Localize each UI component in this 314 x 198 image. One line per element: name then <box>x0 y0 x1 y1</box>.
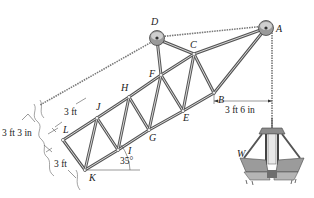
member-JI <box>97 118 118 150</box>
member-FE <box>161 75 183 111</box>
dimension-labels: 3 ft 3 ft 3 in 3 ft 3 ft 6 in 35° <box>2 105 255 169</box>
label-G: G <box>149 132 156 143</box>
joint-H <box>127 95 130 98</box>
label-C: C <box>190 39 197 50</box>
truss-members <box>63 28 266 170</box>
joint-J <box>95 116 98 119</box>
truss-diagram: ABCDEFGHIJKLW 3 ft 3 ft 3 in 3 ft 3 ft 6… <box>0 0 314 198</box>
member-GE <box>149 111 183 130</box>
dim-top-panel: 3 ft <box>64 107 77 117</box>
joint-I <box>116 148 119 151</box>
label-H: H <box>120 82 129 93</box>
pulley-d <box>150 31 165 46</box>
truss-members-highlight <box>63 28 266 170</box>
dim-depth: 3 ft 3 in <box>2 128 32 138</box>
dim-bottom-panel: 3 ft <box>54 159 67 169</box>
label-F: F <box>148 68 156 79</box>
dim-horizontal-offset: 3 ft 6 in <box>225 105 255 115</box>
pulley-a <box>259 21 274 36</box>
label-I: I <box>127 145 132 156</box>
label-J: J <box>96 101 101 112</box>
label-E: E <box>182 112 189 123</box>
member-IH <box>118 97 129 150</box>
label-A: A <box>275 23 283 34</box>
label-K: K <box>88 172 97 183</box>
joint-F <box>159 73 162 76</box>
label-D: D <box>150 16 159 27</box>
label-B: B <box>218 94 224 105</box>
member-HG <box>129 97 149 130</box>
dim-angle: 35° <box>120 156 134 166</box>
clamshell-bucket <box>240 118 304 185</box>
label-L: L <box>62 124 69 135</box>
member-CB <box>194 54 214 93</box>
member-EC <box>183 54 194 111</box>
member-EB <box>183 93 214 111</box>
node-labels: ABCDEFGHIJKLW <box>62 16 283 183</box>
joint-L <box>61 138 64 141</box>
joint-C <box>192 52 195 55</box>
